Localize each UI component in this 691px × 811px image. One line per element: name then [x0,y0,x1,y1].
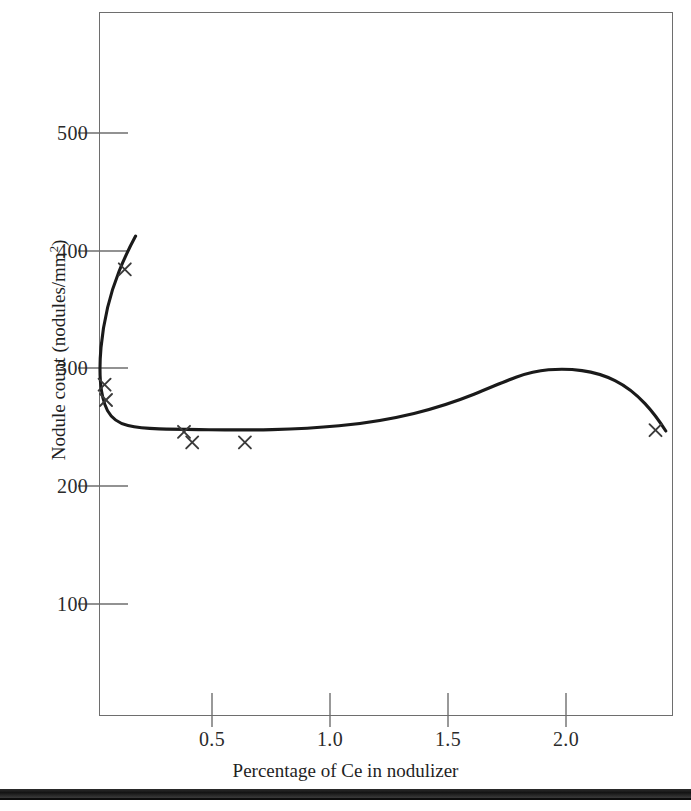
y-axis-title: Nodule count (nodules/mm2) [48,0,70,700]
page-bottom-rule-secondary [0,798,691,800]
x-tick-label: 1.5 [413,729,483,749]
x-tick-label: 1.0 [295,729,365,749]
x-axis-title-text: Percentage of Ce in nodulizer [233,760,459,781]
x-tick-label: 0.5 [177,729,247,749]
x-tick-label: 2.0 [531,729,601,749]
figure-root: 500 400 300 200 100 0.5 1.0 1.5 2.0 Perc… [0,0,691,811]
plot-frame [99,12,673,716]
y-axis-title-tail: ) [48,240,69,246]
y-axis-title-superscript: 2 [47,246,61,252]
y-axis-tick-labels: 500 400 300 200 100 [0,0,88,811]
x-axis-title: Percentage of Ce in nodulizer [0,760,691,782]
x-axis-tick-labels: 0.5 1.0 1.5 2.0 [0,729,691,755]
page-bottom-rule [0,789,691,798]
y-axis-title-text: Nodule count (nodules/mm [48,252,69,460]
